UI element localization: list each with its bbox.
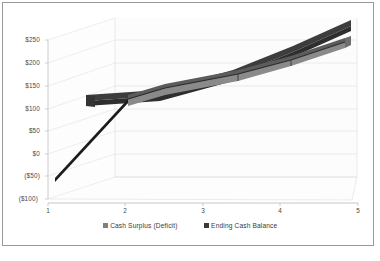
left-side-wall (48, 18, 115, 199)
y-tick-label-150: $150 (6, 82, 40, 89)
y-tick-label-250: $250 (6, 36, 40, 43)
legend-item-ending-cash-balance[interactable]: Ending Cash Balance (204, 222, 278, 229)
x-tick-label-4: 4 (273, 207, 287, 214)
legend-swatch-icon (103, 223, 108, 228)
legend-label-cash-surplus: Cash Surplus (Deficit) (110, 222, 177, 229)
y-tick-label-0: $0 (6, 150, 40, 157)
legend-label-ending-cash-balance: Ending Cash Balance (211, 222, 277, 229)
chart-frame: $250 $200 $150 $100 $50 $0 ($50) ($100) … (0, 0, 380, 261)
y-tick-label-200: $200 (6, 59, 40, 66)
x-axis-ticks (48, 203, 358, 206)
y-tick-label-100: $100 (6, 105, 40, 112)
y-tick-label-50: $50 (6, 127, 40, 134)
x-tick-label-5: 5 (351, 207, 365, 214)
series-ending-cash-balance-start-cap (86, 95, 95, 107)
x-tick-label-2: 2 (118, 207, 132, 214)
y-tick-label-neg100: ($100) (4, 195, 38, 202)
x-tick-label-3: 3 (196, 207, 210, 214)
chart-legend: Cash Surplus (Deficit) Ending Cash Balan… (0, 222, 380, 229)
legend-swatch-icon (204, 223, 209, 228)
x-tick-label-1: 1 (41, 207, 55, 214)
y-axis-ticks (45, 40, 48, 199)
legend-item-cash-surplus[interactable]: Cash Surplus (Deficit) (103, 222, 178, 229)
y-tick-label-neg50: ($50) (6, 172, 40, 179)
